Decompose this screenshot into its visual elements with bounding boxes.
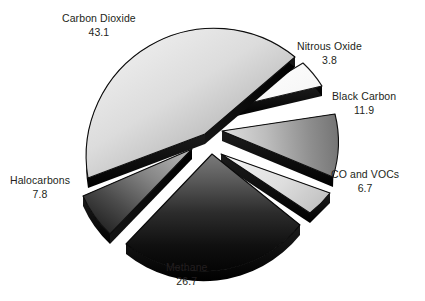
slice-label-value: 11.9	[332, 104, 396, 118]
slice-label-co-and-vocs: CO and VOCs 6.7	[331, 168, 399, 195]
slice-label-halocarbons: Halocarbons 7.8	[10, 174, 70, 201]
slice-label-name: Methane	[166, 261, 208, 275]
slice-label-name: Halocarbons	[10, 174, 70, 188]
slice-label-carbon-dioxide: Carbon Dioxide 43.1	[62, 12, 136, 39]
slice-label-value: 6.7	[331, 182, 399, 196]
slice-label-name: CO and VOCs	[331, 168, 399, 182]
slice-label-value: 7.8	[10, 188, 70, 202]
pie-chart: Carbon Dioxide 43.1 Nitrous Oxide 3.8 Bl…	[0, 0, 425, 301]
slice-label-black-carbon: Black Carbon 11.9	[332, 90, 396, 117]
slice-label-value: 3.8	[297, 54, 362, 68]
slice-label-value: 26.7	[166, 275, 208, 289]
slice-label-name: Carbon Dioxide	[62, 12, 136, 26]
slice-label-methane: Methane 26.7	[166, 261, 208, 288]
slice-label-value: 43.1	[62, 26, 136, 40]
slice-label-nitrous-oxide: Nitrous Oxide 3.8	[297, 40, 362, 67]
slice-label-name: Nitrous Oxide	[297, 40, 362, 54]
slice-label-name: Black Carbon	[332, 90, 396, 104]
